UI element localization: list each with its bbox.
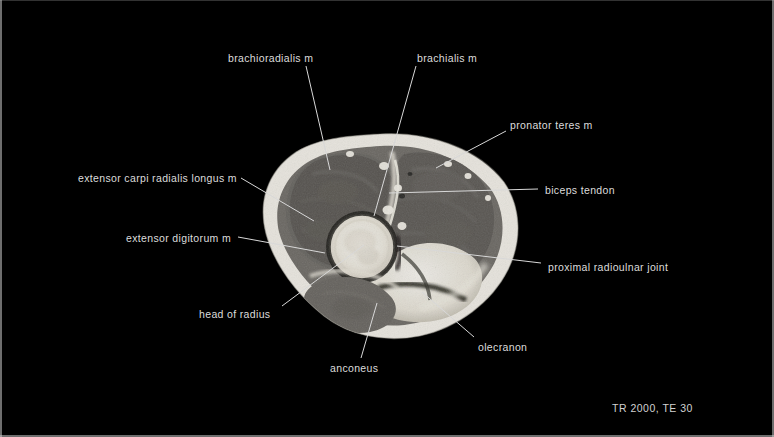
- mri-axial-elbow-scan: [252, 130, 524, 345]
- page-edge-left: [0, 0, 2, 437]
- label-anconeus: anconeus: [330, 363, 378, 374]
- label-proximal-radioulnar-joint: proximal radioulnar joint: [548, 262, 668, 273]
- sequence-parameters: TR 2000, TE 30: [612, 402, 693, 414]
- label-pronator-teres: pronator teres m: [510, 120, 593, 131]
- label-extensor-carpi-radialis-longus: extensor carpi radialis longus m: [78, 173, 237, 184]
- label-head-of-radius: head of radius: [199, 309, 270, 320]
- label-brachioradialis: brachioradialis m: [228, 53, 313, 64]
- label-brachialis: brachialis m: [417, 53, 477, 64]
- label-biceps-tendon: biceps tendon: [545, 185, 615, 196]
- page-edge-top: [0, 0, 774, 1]
- scanned-figure-page: brachioradialis m brachialis m pronator …: [0, 0, 774, 437]
- label-olecranon: olecranon: [478, 342, 527, 353]
- label-extensor-digitorum: extensor digitorum m: [126, 233, 231, 244]
